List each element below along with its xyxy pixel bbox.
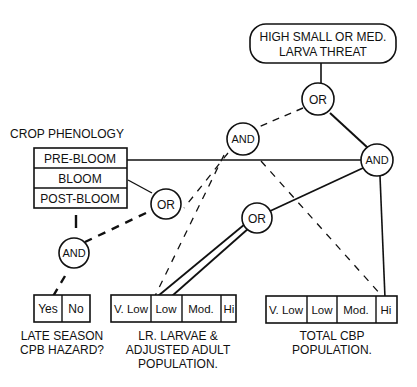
- svg-text:ADJUSTED ADULT: ADJUSTED ADULT: [126, 343, 231, 357]
- svg-text:Mod.: Mod.: [343, 304, 369, 316]
- gate-or-top: OR: [302, 83, 334, 115]
- svg-text:AND: AND: [62, 247, 85, 259]
- svg-text:POPULATION.: POPULATION.: [292, 343, 372, 357]
- gate-and-center: AND: [227, 123, 259, 155]
- phenology-post-bloom: POST-BLOOM: [40, 192, 119, 206]
- svg-text:Low: Low: [311, 304, 333, 316]
- svg-text:Low: Low: [155, 303, 177, 315]
- svg-text:OR: OR: [309, 93, 327, 107]
- svg-text:AND: AND: [231, 133, 254, 145]
- svg-text:Mod.: Mod.: [188, 303, 214, 315]
- late-season-hazard: Yes No LATE SEASON CPB HAZARD?: [20, 295, 104, 357]
- svg-text:LATE SEASON: LATE SEASON: [21, 329, 103, 343]
- goal-node: HIGH SMALL OR MED. LARVA THREAT: [250, 24, 396, 63]
- svg-text:V. Low: V. Low: [269, 304, 304, 316]
- svg-text:AND: AND: [365, 154, 388, 166]
- svg-text:V. Low: V. Low: [114, 303, 149, 315]
- phenology-pre-bloom: PRE-BLOOM: [44, 152, 116, 166]
- gate-and-right: AND: [361, 144, 393, 176]
- larvae-population: V. Low Low Mod. Hi LR. LARVAE & ADJUSTED…: [111, 295, 236, 371]
- svg-text:POPULATION.: POPULATION.: [138, 357, 218, 371]
- svg-text:OR: OR: [157, 198, 175, 212]
- gate-or-left: OR: [151, 189, 181, 219]
- svg-text:TOTAL CBP: TOTAL CBP: [299, 329, 364, 343]
- gate-or-mid: OR: [242, 203, 272, 233]
- svg-text:LR. LARVAE &: LR. LARVAE &: [138, 329, 218, 343]
- svg-text:OR: OR: [248, 212, 266, 226]
- gate-and-left: AND: [59, 238, 89, 268]
- phenology-bloom: BLOOM: [58, 172, 101, 186]
- total-population: V. Low Low Mod. Hi TOTAL CBP POPULATION.: [266, 296, 397, 357]
- late-season-yes: Yes: [38, 302, 58, 316]
- decision-diagram: HIGH SMALL OR MED. LARVA THREAT OR AND A…: [0, 0, 417, 387]
- svg-text:Hi: Hi: [224, 303, 235, 315]
- crop-phenology: CROP PHENOLOGY PRE-BLOOM BLOOM POST-BLOO…: [10, 127, 127, 208]
- crop-phenology-title: CROP PHENOLOGY: [10, 127, 124, 141]
- svg-text:CPB HAZARD?: CPB HAZARD?: [20, 343, 104, 357]
- goal-line1: HIGH SMALL OR MED.: [260, 30, 387, 44]
- late-season-no: No: [68, 302, 84, 316]
- svg-text:Hi: Hi: [381, 304, 392, 316]
- goal-line2: LARVA THREAT: [279, 45, 367, 59]
